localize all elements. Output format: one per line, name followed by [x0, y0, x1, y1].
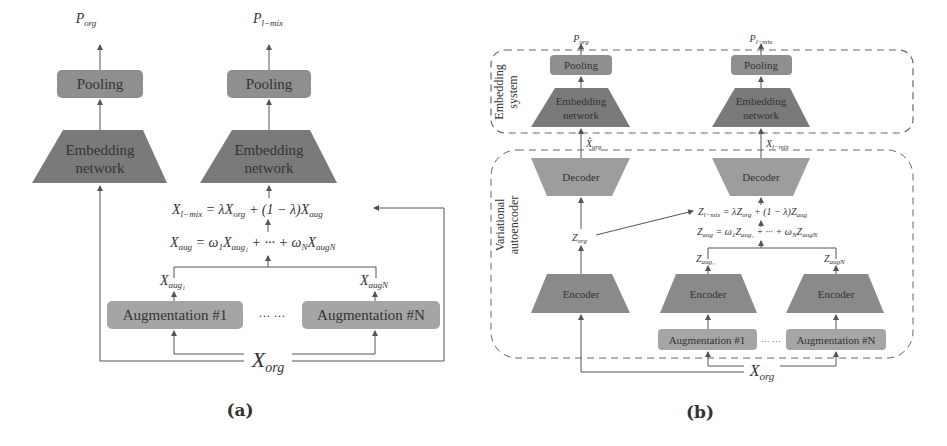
panel-a: Porg Pl−mix Pooling Pooling Embedding ne…	[32, 11, 444, 420]
svg-text:network: network	[563, 109, 600, 121]
svg-text:Decoder: Decoder	[562, 171, 600, 183]
svg-text:Embedding: Embedding	[492, 64, 506, 119]
label-variational-autoencoder: Variational autoencoder	[493, 196, 521, 255]
arrow-xorg-to-aug1-b	[708, 352, 744, 366]
svg-text:Pooling: Pooling	[246, 76, 293, 92]
embedding-network-mix-b: Embedding network	[712, 88, 810, 127]
ellipsis-b: ··· ···	[761, 336, 781, 346]
encoder-aug-n: Encoder	[786, 274, 884, 313]
arrow-xorg-to-augn	[292, 331, 375, 354]
augmentation-box-n-b: Augmentation #N	[786, 329, 886, 350]
svg-text:Embedding: Embedding	[65, 142, 135, 158]
equation-x-aug: Xaug = ω1Xaug₁ + ··· + ωNXaugN	[169, 235, 336, 252]
embedding-network-mix-a: Embedding network	[200, 130, 337, 183]
arrow-zorg-to-z-mix-eq	[596, 211, 693, 235]
svg-text:autoencoder: autoencoder	[507, 196, 521, 255]
panel-b: Embedding system Variational autoencoder…	[491, 33, 913, 422]
svg-text:Augmentation #1: Augmentation #1	[669, 334, 746, 346]
ellipsis-a: ··· ···	[259, 309, 286, 323]
svg-text:Encoder: Encoder	[690, 288, 727, 300]
decoder-org: Decoder	[531, 158, 630, 196]
svg-text:Augmentation #N: Augmentation #N	[796, 334, 875, 346]
embedding-network-org-b: Embedding network	[531, 88, 630, 127]
arrow-xorg-to-augn-b	[780, 352, 836, 366]
diagram-canvas: Porg Pl−mix Pooling Pooling Embedding ne…	[0, 0, 947, 446]
svg-text:Encoder: Encoder	[563, 288, 600, 300]
svg-text:Pooling: Pooling	[77, 76, 124, 92]
label-z-org: Zorg	[572, 232, 588, 245]
arrow-xorg-to-aug1	[174, 331, 244, 354]
svg-text:network: network	[75, 160, 125, 176]
label-z-aug1: Zaug₁	[696, 253, 715, 266]
label-x-aug1: Xaug₁	[159, 273, 185, 290]
label-recon-x-org: X̂org	[585, 137, 602, 151]
encoder-aug-1: Encoder	[660, 274, 757, 313]
label-recon-x-mix: Xl−mix	[765, 138, 790, 151]
augmentation-box-1-b: Augmentation #1	[658, 329, 757, 350]
equation-z-aug: Zaug = ω1Zaug₁ + ··· + ωNZaugN	[697, 226, 818, 239]
output-p-org-a: Porg	[75, 11, 97, 28]
svg-text:Augmentation #1: Augmentation #1	[123, 307, 228, 323]
label-z-augn: ZaugN	[824, 253, 845, 266]
pooling-box-mix-a: Pooling	[227, 70, 311, 98]
decoder-mix: Decoder	[712, 158, 810, 196]
caption-b: (b)	[686, 402, 714, 422]
caption-a: (a)	[226, 400, 253, 420]
svg-text:network: network	[244, 160, 294, 176]
svg-text:Augmentation #N: Augmentation #N	[317, 307, 425, 323]
pooling-box-mix-b: Pooling	[731, 55, 792, 75]
input-x-org-b: Xorg	[749, 362, 775, 382]
svg-text:Decoder: Decoder	[742, 171, 780, 183]
embedding-network-org-a: Embedding network	[32, 130, 167, 183]
svg-text:Variational: Variational	[493, 198, 507, 251]
augmentation-box-n-a: Augmentation #N	[302, 301, 440, 329]
equation-x-mix: Xl−mix = λXorg + (1 − λ)Xaug	[171, 202, 323, 219]
bracket-aug-combine	[174, 267, 376, 278]
equation-z-mix: Zl−mix = λZorg + (1 − λ)Zaug	[698, 206, 808, 219]
svg-text:Pooling: Pooling	[564, 59, 599, 71]
svg-text:Pooling: Pooling	[744, 59, 779, 71]
encoder-org: Encoder	[531, 274, 630, 313]
svg-text:Encoder: Encoder	[818, 288, 855, 300]
output-p-mix-a: Pl−mix	[252, 11, 283, 28]
input-x-org-a: Xorg	[251, 347, 284, 375]
pooling-box-org-b: Pooling	[550, 55, 612, 75]
svg-text:system: system	[506, 75, 520, 109]
bracket-z-combine	[708, 248, 836, 259]
svg-text:Embedding: Embedding	[234, 142, 304, 158]
svg-text:Embedding: Embedding	[736, 95, 787, 107]
label-embedding-system: Embedding system	[492, 64, 520, 119]
svg-text:Embedding: Embedding	[556, 95, 607, 107]
pooling-box-org-a: Pooling	[57, 70, 143, 98]
augmentation-box-1-a: Augmentation #1	[107, 301, 243, 329]
svg-text:network: network	[743, 109, 780, 121]
label-x-augn: XaugN	[359, 273, 389, 290]
